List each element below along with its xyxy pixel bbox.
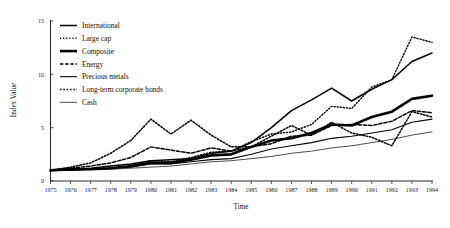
x-tick-label: 1984 xyxy=(225,187,237,193)
x-tick-label: 1983 xyxy=(205,187,217,193)
x-tick-label: 1989 xyxy=(326,187,338,193)
legend-item-label: Precious metals xyxy=(82,72,129,81)
x-tick-label: 1990 xyxy=(346,187,358,193)
chart-figure: 051015 197519761977197819791980198119821… xyxy=(0,0,450,228)
legend-item-label: Energy xyxy=(82,60,104,69)
x-tick-label: 1994 xyxy=(426,187,438,193)
x-tick-label: 1975 xyxy=(44,187,56,193)
x-tick-label: 1977 xyxy=(85,187,97,193)
x-tick-label: 1992 xyxy=(386,187,398,193)
legend-item-label: Large cap xyxy=(82,34,112,43)
x-tick-label: 1980 xyxy=(145,187,157,193)
x-tick-label: 1982 xyxy=(185,187,197,193)
x-tick-label: 1991 xyxy=(366,187,378,193)
legend-item-label: Long-term corporate bonds xyxy=(82,85,163,94)
x-tick-label: 1976 xyxy=(64,187,76,193)
x-tick-label: 1985 xyxy=(245,187,257,193)
x-tick-label: 1979 xyxy=(125,187,137,193)
x-tick-label: 1993 xyxy=(406,187,418,193)
x-tick-label: 1986 xyxy=(265,187,277,193)
x-axis-title: Time xyxy=(234,203,249,211)
legend-item-label: Cash xyxy=(82,98,97,107)
line-chart: 051015 197519761977197819791980198119821… xyxy=(0,0,450,228)
y-tick-label: 5 xyxy=(41,125,44,131)
x-tick-label: 1988 xyxy=(305,187,317,193)
y-axis-title: Index Value xyxy=(10,83,18,117)
y-tick-label: 0 xyxy=(41,178,44,184)
x-tick-label: 1987 xyxy=(285,187,297,193)
legend-item-label: International xyxy=(82,21,120,30)
legend-item-label: Composite xyxy=(82,47,115,56)
x-tick-label: 1978 xyxy=(105,187,117,193)
x-tick-label: 1981 xyxy=(165,187,177,193)
y-tick-label: 10 xyxy=(38,72,44,78)
y-tick-label: 15 xyxy=(38,18,44,24)
